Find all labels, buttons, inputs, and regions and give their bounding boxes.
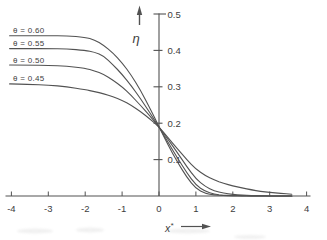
- y-tick-label: 0.2: [168, 118, 181, 129]
- series-curve-theta-0.45: [10, 84, 292, 194]
- x-arrow-head-icon: [202, 224, 211, 229]
- scan-smudge: [76, 228, 104, 233]
- axes-layer: -4-3-2-1012340.10.20.30.40.5: [6, 9, 311, 215]
- x-tick-label: -3: [44, 203, 52, 214]
- series-curve-theta-0.60: [10, 36, 292, 196]
- chart-svg: -4-3-2-1012340.10.20.30.40.5 θ = 0.60θ =…: [0, 0, 327, 240]
- scan-smudges: [17, 228, 266, 240]
- scan-smudge: [234, 235, 266, 239]
- x-axis-label-sup: *: [170, 221, 174, 230]
- series-curve-theta-0.50: [10, 65, 292, 196]
- y-tick-label: 0.3: [168, 81, 181, 92]
- series-label-theta-0.50: θ = 0.50: [13, 56, 45, 65]
- x-tick-label: 2: [230, 203, 235, 214]
- y-axis-label: η: [133, 31, 140, 46]
- x-tick-label: -2: [81, 203, 89, 214]
- y-tick-label: 0.5: [168, 9, 181, 20]
- series-labels-layer: θ = 0.60θ = 0.55θ = 0.50θ = 0.45: [13, 26, 45, 83]
- series-label-theta-0.55: θ = 0.55: [13, 39, 45, 48]
- x-tick-label: 3: [267, 203, 272, 214]
- series-curve-theta-0.55: [10, 49, 292, 196]
- scan-smudge: [17, 229, 53, 234]
- figure: -4-3-2-1012340.10.20.30.40.5 θ = 0.60θ =…: [0, 0, 327, 240]
- x-tick-label: 1: [193, 203, 198, 214]
- x-tick-label: 0: [156, 203, 161, 214]
- series-label-theta-0.45: θ = 0.45: [13, 74, 45, 83]
- x-tick-label: -1: [118, 203, 126, 214]
- y-tick-label: 0.4: [168, 45, 181, 56]
- series-label-theta-0.60: θ = 0.60: [13, 26, 45, 35]
- eta-arrow-head-icon: [137, 6, 142, 16]
- x-tick-label: 4: [304, 203, 309, 214]
- curves-layer: [10, 36, 292, 196]
- y-axis-annotation: η: [133, 6, 143, 47]
- x-tick-label: -4: [7, 203, 15, 214]
